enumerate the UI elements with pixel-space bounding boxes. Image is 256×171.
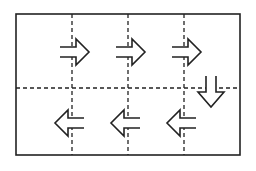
snake-path-diagram	[0, 0, 256, 171]
arrow-left-1-icon	[167, 110, 196, 136]
arrow-right-1-icon	[60, 39, 89, 65]
arrow-right-2-icon	[116, 39, 145, 65]
arrow-down-icon	[198, 76, 224, 107]
arrow-left-2-icon	[111, 110, 140, 136]
arrow-left-3-icon	[55, 110, 84, 136]
arrow-right-3-icon	[172, 39, 201, 65]
